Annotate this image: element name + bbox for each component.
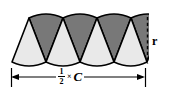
right-edge-mask <box>149 0 169 70</box>
width-dimension-line <box>11 68 146 87</box>
dimension-arrow-right-icon <box>137 74 145 80</box>
sector-diagram-canvas <box>0 0 169 93</box>
sector-diagram-figure: r 1 2 × C <box>0 0 169 93</box>
dimension-arrow-left-icon <box>11 74 19 80</box>
